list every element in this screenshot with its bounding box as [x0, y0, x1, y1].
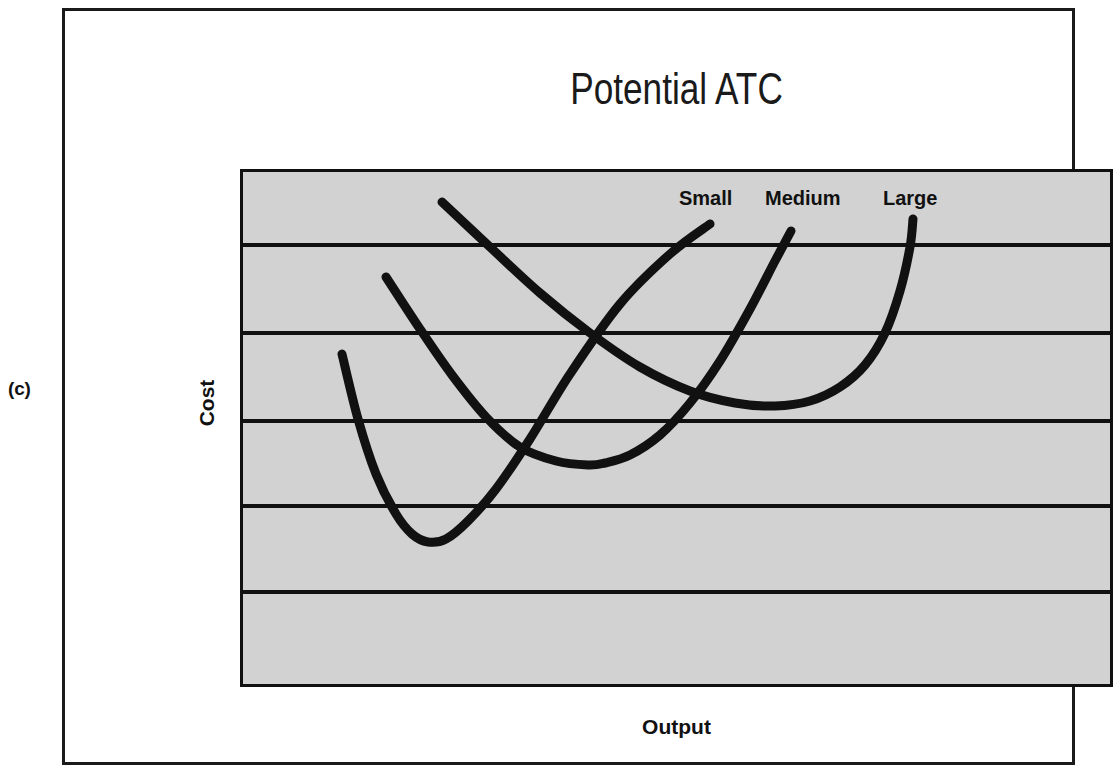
- y-axis-label-text: Cost: [195, 380, 219, 427]
- panel-letter-label: (c): [8, 378, 56, 400]
- plot-svg: [240, 169, 1113, 687]
- chart-title: Potential ATC: [327, 67, 1025, 111]
- curve-label-large: Large: [883, 187, 937, 210]
- curve-label-medium: Medium: [765, 187, 841, 210]
- curve-large: [442, 202, 913, 406]
- curve-label-small: Small: [679, 187, 732, 210]
- atc-curves: [342, 202, 913, 542]
- x-axis-label: Output: [240, 715, 1113, 739]
- plot-area: [240, 169, 1113, 687]
- figure-outer-frame: Potential ATC Cost: [62, 8, 1075, 765]
- curve-small: [342, 224, 710, 542]
- y-axis-label: Cost: [177, 373, 237, 433]
